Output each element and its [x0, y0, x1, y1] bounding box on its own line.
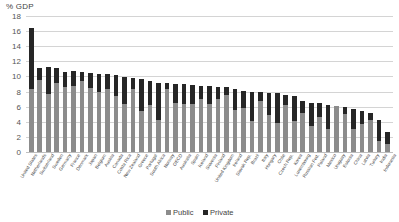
bar-segment-private [71, 71, 76, 86]
bar-segment-public [300, 113, 305, 152]
bar-segment-private [241, 91, 246, 108]
bar-stack [199, 16, 204, 152]
bar-segment-private [63, 72, 68, 87]
bar-column[interactable] [129, 16, 137, 152]
bar-stack [156, 16, 161, 152]
bar-segment-public [351, 129, 356, 152]
bar-column[interactable] [273, 16, 281, 152]
bar-segment-public [385, 144, 390, 152]
y-tick-label-16: 16 [12, 27, 21, 36]
bar-column[interactable] [358, 16, 366, 152]
bar-column[interactable] [44, 16, 52, 152]
bar-segment-public [190, 104, 195, 152]
bar-stack [46, 16, 51, 152]
bar-column[interactable] [307, 16, 315, 152]
bar-stack [122, 16, 127, 152]
bar-segment-public [343, 114, 348, 152]
bar-column[interactable] [282, 16, 290, 152]
bar-segment-public [54, 83, 59, 153]
bar-stack [88, 16, 93, 152]
bar-column[interactable] [188, 16, 196, 152]
legend-swatch-public-icon [166, 210, 171, 215]
plot-area [26, 16, 393, 152]
bar-segment-public [156, 120, 161, 152]
bar-column[interactable] [248, 16, 256, 152]
bar-column[interactable] [35, 16, 43, 152]
bar-column[interactable] [214, 16, 222, 152]
bar-column[interactable] [341, 16, 349, 152]
bar-segment-private [343, 107, 348, 114]
bar-column[interactable] [146, 16, 154, 152]
bar-segment-private [173, 84, 178, 103]
legend-item-public: Public [166, 208, 194, 217]
bar-stack [292, 16, 297, 152]
bar-segment-private [267, 93, 272, 115]
bar-segment-public [63, 87, 68, 152]
bar-segment-private [283, 95, 288, 106]
y-tick-label-8: 8 [17, 87, 21, 96]
bar-stack [165, 16, 170, 152]
bar-segment-private [97, 74, 102, 91]
bar-segment-public [97, 92, 102, 152]
bar-stack [182, 16, 187, 152]
bar-segment-private [233, 89, 238, 111]
bar-stack [233, 16, 238, 152]
bar-column[interactable] [163, 16, 171, 152]
bar-segment-public [368, 120, 373, 152]
bar-column[interactable] [120, 16, 128, 152]
bar-column[interactable] [112, 16, 120, 152]
bar-column[interactable] [171, 16, 179, 152]
y-tick-label-6: 6 [17, 102, 21, 111]
bar-stack [114, 16, 119, 152]
x-axis-category-labels: United StatesNetherlandsSwitzerlandSwede… [26, 153, 393, 199]
bar-column[interactable] [78, 16, 86, 152]
y-tick-label-14: 14 [12, 42, 21, 51]
bar-column[interactable] [222, 16, 230, 152]
bar-segment-public [114, 96, 119, 152]
bar-column[interactable] [137, 16, 145, 152]
bar-column[interactable] [27, 16, 35, 152]
bar-column[interactable] [69, 16, 77, 152]
bar-column[interactable] [366, 16, 374, 152]
bar-segment-public [37, 80, 42, 152]
bar-column[interactable] [349, 16, 357, 152]
bar-segment-private [258, 92, 263, 101]
bar-segment-private [156, 83, 161, 120]
bar-column[interactable] [332, 16, 340, 152]
bar-segment-private [326, 105, 331, 128]
y-axis-ticks: 024681012141618 [0, 16, 24, 152]
bar-stack [250, 16, 255, 152]
bar-column[interactable] [197, 16, 205, 152]
bar-column[interactable] [86, 16, 94, 152]
bar-column[interactable] [290, 16, 298, 152]
bar-column[interactable] [256, 16, 264, 152]
bar-column[interactable] [180, 16, 188, 152]
bar-segment-public [224, 95, 229, 152]
bar-column[interactable] [103, 16, 111, 152]
bar-segment-public [360, 124, 365, 152]
bar-column[interactable] [231, 16, 239, 152]
bar-segment-public [267, 115, 272, 152]
bar-stack [173, 16, 178, 152]
bar-column[interactable] [375, 16, 383, 152]
bar-segment-public [122, 104, 127, 152]
bar-column[interactable] [265, 16, 273, 152]
bar-column[interactable] [154, 16, 162, 152]
bar-column[interactable] [95, 16, 103, 152]
bar-column[interactable] [52, 16, 60, 152]
bar-column[interactable] [61, 16, 69, 152]
bar-segment-public [139, 111, 144, 152]
bar-segment-public [131, 89, 136, 152]
bar-stack [334, 16, 339, 152]
bar-column[interactable] [383, 16, 391, 152]
bar-column[interactable] [324, 16, 332, 152]
bar-column[interactable] [315, 16, 323, 152]
bar-series-container [26, 16, 393, 152]
bar-segment-public [105, 89, 110, 152]
bar-column[interactable] [239, 16, 247, 152]
bar-column[interactable] [299, 16, 307, 152]
bar-stack [258, 16, 263, 152]
bar-column[interactable] [205, 16, 213, 152]
bar-segment-private [317, 103, 322, 117]
bar-segment-private [275, 93, 280, 122]
